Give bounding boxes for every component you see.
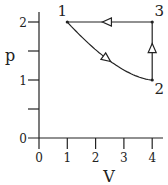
state-label-3: 3 xyxy=(154,2,164,20)
state-point-2 xyxy=(151,78,154,81)
process-path-1-2 xyxy=(67,22,152,80)
state-label-1: 1 xyxy=(58,2,68,20)
x-tick-label: 3 xyxy=(120,151,128,165)
x-tick-label: 2 xyxy=(92,151,100,165)
y-tick-label: 2 xyxy=(19,16,27,30)
pv-diagram: 01234 012 123 p V xyxy=(0,0,168,185)
state-label-2: 2 xyxy=(154,80,164,98)
y-tick-label: 0 xyxy=(19,132,27,146)
state-point-1 xyxy=(66,20,69,23)
x-tick-label: 1 xyxy=(63,151,71,165)
x-tick-label: 0 xyxy=(35,151,43,165)
arrow-1-2 xyxy=(101,53,111,62)
arrow-3-1 xyxy=(102,18,111,26)
x-axis-label: V xyxy=(102,167,115,185)
x-tick-label: 4 xyxy=(148,151,156,165)
state-point-3 xyxy=(151,20,154,23)
arrow-2-3 xyxy=(148,44,156,53)
y-axis-label: p xyxy=(5,46,15,65)
y-tick-label: 1 xyxy=(19,74,27,88)
